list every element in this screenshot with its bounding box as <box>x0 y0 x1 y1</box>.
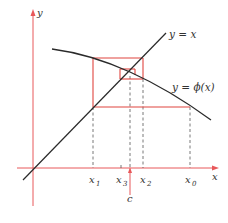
cobweb-diagram: y x y = x y = ϕ(x) x 1 x 3 x 2 x 0 c <box>0 0 228 223</box>
svg-text:x: x <box>116 174 122 185</box>
svg-text:x: x <box>89 174 95 185</box>
tick-label-x2: x 2 <box>140 174 152 188</box>
svg-text:0: 0 <box>192 180 197 188</box>
svg-text:2: 2 <box>146 180 152 188</box>
svg-text:x: x <box>185 174 191 185</box>
line-label: y = x <box>168 28 196 40</box>
tick-label-x1: x 1 <box>89 174 100 188</box>
fixed-point-marker <box>128 167 132 195</box>
phi-label: y = ϕ(x) <box>171 81 215 93</box>
tick-label-x0: x 0 <box>185 174 197 188</box>
x-axis-arrow-icon <box>212 166 219 171</box>
x-axis-label: x <box>212 171 218 182</box>
y-axis <box>31 9 36 206</box>
svg-text:x: x <box>140 174 146 185</box>
svg-text:3: 3 <box>123 180 128 188</box>
y-axis-label: y <box>36 7 43 18</box>
y-axis-arrow-icon <box>31 9 36 16</box>
x-axis <box>17 166 219 171</box>
fixed-point-label: c <box>127 193 133 204</box>
svg-text:1: 1 <box>96 180 100 188</box>
tick-label-x3: x 3 <box>116 174 128 188</box>
